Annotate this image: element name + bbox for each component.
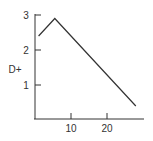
y-tick-label-3: 3 <box>23 10 29 21</box>
y-tick-label-2: 2 <box>23 45 29 56</box>
x-axis: 10 20 <box>34 113 144 134</box>
x-tick-label-10: 10 <box>65 123 77 134</box>
data-line <box>39 19 136 107</box>
y-axis: 3 2 1 D+ <box>8 10 41 119</box>
y-axis-label: D+ <box>8 64 21 75</box>
x-tick-label-20: 20 <box>101 123 113 134</box>
y-tick-label-1: 1 <box>23 80 29 91</box>
line-chart: 3 2 1 D+ 10 20 <box>0 0 153 141</box>
